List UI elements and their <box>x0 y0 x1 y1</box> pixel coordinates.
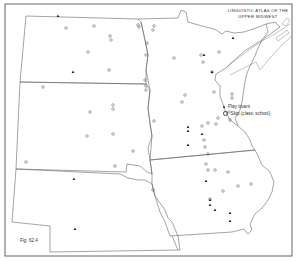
skip-marker <box>146 42 149 45</box>
play-truant-marker <box>232 36 235 39</box>
play-truant-marker <box>74 227 77 230</box>
skip-marker <box>110 39 113 42</box>
play-truant-marker <box>187 125 190 128</box>
skip-marker <box>215 123 218 126</box>
skip-marker <box>231 97 234 100</box>
skip-marker <box>89 111 92 114</box>
play-truant-marker <box>187 129 190 132</box>
legend-item-skip: Skip (class; school) <box>223 110 270 117</box>
skip-marker <box>201 125 204 128</box>
skip-marker <box>203 139 206 142</box>
skip-marker <box>65 27 68 30</box>
skip-marker <box>207 122 210 125</box>
triangle-filled-icon <box>223 105 225 108</box>
legend-label: Skip (class; school) <box>231 110 271 117</box>
play-truant-marker <box>73 177 76 180</box>
play-truant-marker <box>229 211 232 214</box>
skip-marker <box>173 57 176 60</box>
legend-item-play-truant: Play truant <box>223 103 270 110</box>
skip-marker <box>200 54 203 57</box>
play-truant-marker <box>187 143 190 146</box>
skip-marker <box>204 146 207 149</box>
play-truant-marker <box>57 14 60 17</box>
south-dakota-outline <box>16 82 152 174</box>
skip-marker <box>153 120 156 123</box>
skip-marker <box>145 54 148 57</box>
lake-superior-shore <box>226 24 290 68</box>
skip-marker <box>213 91 216 94</box>
skip-marker <box>217 117 220 120</box>
skip-marker <box>231 93 234 96</box>
skip-marker <box>207 169 210 172</box>
skip-marker <box>205 163 208 166</box>
skip-marker <box>222 190 225 193</box>
skip-marker <box>42 86 45 89</box>
skip-marker <box>152 29 155 32</box>
skip-marker <box>250 183 253 186</box>
north-dakota-outline <box>20 16 148 84</box>
skip-marker <box>145 89 148 92</box>
legend-label: Play truant <box>228 103 250 110</box>
play-truant-marker <box>214 208 217 211</box>
circle-open-icon <box>223 111 228 116</box>
minnesota-outline <box>138 10 280 160</box>
isle-royale <box>276 30 289 41</box>
skip-marker <box>145 85 148 88</box>
skip-marker <box>202 61 205 64</box>
map-legend: Play truant Skip (class; school) <box>223 103 270 117</box>
skip-marker <box>214 169 217 172</box>
skip-marker <box>109 35 112 38</box>
skip-marker <box>93 25 96 28</box>
skip-marker <box>181 101 184 104</box>
figure-label: Fig. 62.4 <box>20 238 38 243</box>
play-truant-marker <box>205 179 208 182</box>
skip-marker <box>108 69 111 72</box>
skip-marker <box>218 51 221 54</box>
play-truant-marker <box>201 132 204 135</box>
skip-marker <box>25 161 28 164</box>
skip-marker <box>207 153 210 156</box>
skip-marker <box>114 165 117 168</box>
play-truant-marker <box>72 70 75 73</box>
skip-marker <box>184 94 187 97</box>
iowa-outline <box>150 150 274 236</box>
skip-marker <box>237 185 240 188</box>
atlas-title: LINGUISTIC ATLAS OF THE UPPER MIDWEST <box>226 8 290 20</box>
skip-marker <box>132 150 135 153</box>
play-truant-marker <box>203 53 206 56</box>
play-truant-marker <box>209 203 212 206</box>
skip-marker <box>112 104 115 107</box>
atlas-title-line2: UPPER MIDWEST <box>226 14 290 20</box>
skip-marker <box>227 171 230 174</box>
skip-marker <box>153 25 156 28</box>
play-truant-marker <box>229 219 232 222</box>
skip-marker <box>87 51 90 54</box>
skip-marker <box>112 108 115 111</box>
missouri-boundary <box>172 236 178 250</box>
skip-marker <box>112 133 115 136</box>
map-canvas <box>0 0 297 261</box>
skip-marker <box>86 135 89 138</box>
map-frame <box>5 4 292 256</box>
